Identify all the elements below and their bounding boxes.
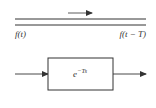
transfer-function-exponent: −Ts [77, 67, 87, 74]
transmission-line [15, 13, 146, 25]
block-diagram: e−Ts [15, 58, 146, 90]
output-signal-label: f(t − T) [119, 29, 146, 39]
input-signal-label: f(t) [15, 29, 26, 39]
transfer-function-block [48, 58, 113, 90]
delay-diagram: f(t) f(t − T) e−Ts [0, 0, 156, 108]
